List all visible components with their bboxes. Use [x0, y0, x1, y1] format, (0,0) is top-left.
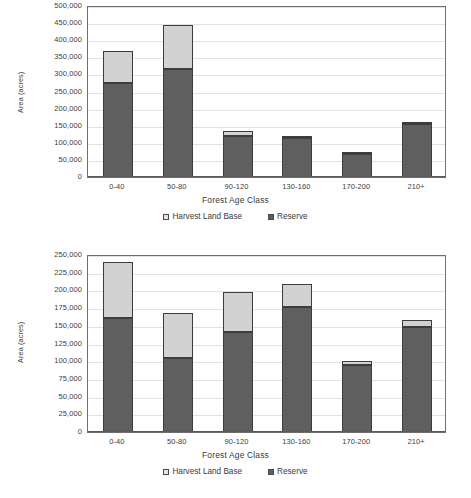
x-tick-label: 0-40: [87, 182, 147, 191]
legend-label: Reserve: [277, 212, 308, 221]
bar-50-80: [163, 25, 193, 177]
bar-segment-harvest-land-base: [282, 136, 312, 138]
chart-2-legend: Harvest Land BaseReserve: [0, 467, 471, 476]
bar-segment-reserve: [402, 327, 432, 432]
y-tick-label: 75,000: [58, 375, 82, 383]
legend-swatch-reserve-icon: [268, 469, 274, 475]
y-tick-label: 25,000: [58, 410, 82, 418]
bar-segment-harvest-land-base: [223, 292, 253, 332]
chart-2-x-axis-title: Forest Age Class: [0, 450, 471, 460]
bar-segment-harvest-land-base: [282, 284, 312, 307]
y-tick-label: 100,000: [54, 357, 82, 365]
chart-2: Area (acres) 250,000225,000200,000175,00…: [0, 244, 471, 498]
legend-label: Reserve: [277, 467, 308, 476]
bar-50-80: [163, 313, 193, 432]
chart-1-legend: Harvest Land BaseReserve: [0, 212, 471, 221]
y-tick-label: 100,000: [54, 139, 82, 147]
bar-segment-reserve: [223, 332, 253, 432]
y-tick-label: 450,000: [54, 19, 82, 27]
y-tick-label: 200,000: [54, 286, 82, 294]
bar-210+: [402, 123, 432, 177]
bar-0-40: [103, 262, 133, 432]
bar-segment-reserve: [163, 69, 193, 177]
bar-210+: [402, 320, 432, 432]
bar-segment-reserve: [342, 154, 372, 177]
chart-1-y-axis-ticks: 500,000450,000400,000350,000300,000250,0…: [25, 0, 82, 185]
x-tick-label: 50-80: [147, 182, 207, 191]
bar-segment-harvest-land-base: [342, 361, 372, 365]
chart-2-y-axis-ticks: 250,000225,000200,000175,000150,000125,0…: [25, 250, 82, 440]
chart-2-y-axis-title: Area (acres): [16, 322, 25, 363]
legend-swatch-harvest-icon: [163, 214, 169, 220]
y-tick-label: 0: [78, 428, 82, 436]
bar-segment-harvest-land-base: [103, 262, 133, 318]
legend-label: Harvest Land Base: [172, 212, 242, 221]
bar-90-120: [223, 292, 253, 432]
bar-segment-harvest-land-base: [402, 320, 432, 327]
y-tick-label: 150,000: [54, 322, 82, 330]
chart-1-plot-area: [87, 6, 446, 178]
bar-segment-harvest-land-base: [103, 51, 133, 83]
x-tick-label: 50-80: [147, 437, 207, 446]
bar-90-120: [223, 131, 253, 177]
y-tick-label: 500,000: [54, 2, 82, 10]
figure-container: Area (acres) 500,000450,000400,000350,00…: [0, 0, 471, 498]
bar-segment-harvest-land-base: [223, 131, 253, 136]
x-tick-label: 170-200: [326, 182, 386, 191]
bar-segment-reserve: [103, 318, 133, 432]
chart-2-plot-area: [87, 255, 446, 433]
bar-segment-reserve: [282, 307, 312, 432]
y-tick-label: 50,000: [58, 393, 82, 401]
bar-170-200: [342, 154, 372, 177]
bar-130-160: [282, 284, 312, 432]
bar-segment-reserve: [342, 365, 372, 432]
y-tick-label: 200,000: [54, 105, 82, 113]
bar-130-160: [282, 136, 312, 177]
bar-segment-reserve: [163, 358, 193, 432]
bar-segment-harvest-land-base: [163, 25, 193, 69]
y-tick-label: 250,000: [54, 251, 82, 259]
y-tick-label: 0: [78, 173, 82, 181]
bar-segment-reserve: [282, 138, 312, 177]
y-tick-label: 125,000: [54, 340, 82, 348]
x-tick-label: 0-40: [87, 437, 147, 446]
bar-segment-reserve: [402, 124, 432, 177]
chart-1: Area (acres) 500,000450,000400,000350,00…: [0, 0, 471, 230]
legend-swatch-reserve-icon: [268, 214, 274, 220]
bar-segment-harvest-land-base: [163, 313, 193, 358]
y-tick-label: 300,000: [54, 70, 82, 78]
chart-1-y-axis-title: Area (acres): [16, 72, 25, 113]
bar-0-40: [103, 51, 133, 177]
legend-item-harvest: Harvest Land Base: [163, 212, 242, 221]
y-tick-label: 175,000: [54, 304, 82, 312]
bar-170-200: [342, 361, 372, 432]
x-tick-label: 90-120: [207, 182, 267, 191]
y-tick-label: 250,000: [54, 88, 82, 96]
x-tick-label: 130-160: [266, 182, 326, 191]
y-tick-label: 350,000: [54, 53, 82, 61]
legend-item-reserve: Reserve: [268, 212, 308, 221]
bar-segment-harvest-land-base: [402, 122, 432, 124]
bar-segment-reserve: [223, 136, 253, 177]
y-tick-label: 225,000: [54, 269, 82, 277]
x-tick-label: 130-160: [266, 437, 326, 446]
bar-segment-reserve: [103, 83, 133, 177]
chart-1-x-axis-title: Forest Age Class: [0, 195, 471, 205]
legend-item-reserve: Reserve: [268, 467, 308, 476]
bar-segment-harvest-land-base: [342, 152, 372, 154]
legend-label: Harvest Land Base: [172, 467, 242, 476]
chart-2-baseline: [88, 431, 445, 432]
x-tick-label: 210+: [386, 182, 446, 191]
y-tick-label: 150,000: [54, 122, 82, 130]
legend-item-harvest: Harvest Land Base: [163, 467, 242, 476]
y-tick-label: 400,000: [54, 36, 82, 44]
x-tick-label: 90-120: [207, 437, 267, 446]
legend-swatch-harvest-icon: [163, 469, 169, 475]
chart-1-baseline: [88, 176, 445, 177]
y-tick-label: 50,000: [58, 156, 82, 164]
x-tick-label: 210+: [386, 437, 446, 446]
x-tick-label: 170-200: [326, 437, 386, 446]
